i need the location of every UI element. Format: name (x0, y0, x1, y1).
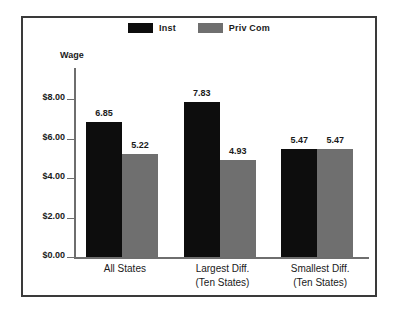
bar-group: 5.475.47 (271, 99, 369, 257)
bar[interactable]: 5.22 (122, 154, 158, 257)
category-label-line2: (Ten States) (255, 276, 385, 290)
category-label-line1: Smallest Diff. (291, 263, 350, 274)
y-axis-tick-label: $2.00 (42, 211, 65, 221)
legend-entry-priv-com: Priv Com (198, 23, 270, 33)
bar[interactable]: 6.85 (86, 122, 122, 257)
legend-label-inst: Inst (159, 23, 176, 33)
bar-value-label: 5.22 (131, 140, 149, 150)
bar-group: 6.855.22 (76, 99, 174, 257)
y-axis-title: Wage (60, 50, 84, 60)
bar[interactable]: 5.47 (317, 149, 353, 257)
chart-legend: Inst Priv Com (23, 23, 375, 33)
legend-swatch-inst (128, 23, 153, 33)
bar[interactable]: 5.47 (281, 149, 317, 257)
category-label-line1: All States (104, 263, 146, 274)
y-axis-tick-mark (67, 99, 75, 100)
y-axis-tick-mark (67, 257, 75, 258)
y-axis-tick-label: $4.00 (42, 171, 65, 181)
bar-value-label: 4.93 (229, 146, 247, 156)
y-axis-tick-mark (67, 139, 75, 140)
bar-value-label: 6.85 (95, 108, 113, 118)
y-axis-tick-label: $0.00 (42, 250, 65, 260)
x-axis-category-labels: All StatesLargest Diff.(Ten States)Small… (76, 262, 369, 302)
bar-value-label: 7.83 (193, 88, 211, 98)
bar-group: 7.834.93 (174, 99, 272, 257)
y-axis-tick-mark (67, 178, 75, 179)
y-axis-tick-label: $6.00 (42, 132, 65, 142)
chart-frame: Inst Priv Com Wage $0.00$2.00$4.00$6.00$… (21, 16, 377, 297)
y-axis-tick-mark (67, 218, 75, 219)
y-axis-tick-label: $8.00 (42, 92, 65, 102)
x-axis-category-label: Smallest Diff.(Ten States) (255, 262, 385, 290)
bar-series-container: 6.855.227.834.935.475.47 (76, 99, 369, 257)
legend-label-priv-com: Priv Com (229, 23, 270, 33)
bar-value-label: 5.47 (327, 135, 345, 145)
x-axis-line (74, 257, 369, 259)
legend-swatch-priv-com (198, 23, 223, 33)
category-label-line1: Largest Diff. (196, 263, 250, 274)
bar[interactable]: 7.83 (184, 102, 220, 257)
legend-entry-inst: Inst (128, 23, 176, 33)
bar[interactable]: 4.93 (220, 160, 256, 257)
bar-value-label: 5.47 (291, 135, 309, 145)
